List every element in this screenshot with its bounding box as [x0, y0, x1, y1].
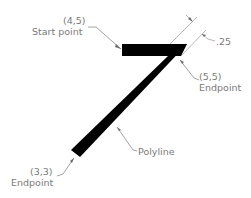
end-point-bottom-coord: (3,3) [30, 166, 53, 177]
start-point-label: Start point [32, 26, 83, 37]
start-point-arrowhead [115, 44, 121, 49]
end-point-bottom-label: Endpoint [11, 177, 54, 188]
polyline-label: Polyline [138, 146, 175, 157]
width-extension-line-1 [170, 17, 197, 44]
end-point-top-coord: (5,5) [199, 71, 222, 82]
end-point-top-arrowhead [180, 60, 184, 64]
polyline-leader [117, 127, 137, 151]
polyline-diagram: (4,5) Start point .25 (5,5) Endpoint Pol… [0, 0, 251, 198]
end-point-top-label: Endpoint [199, 82, 242, 93]
width-dimension-label: .25 [216, 36, 231, 47]
diagonal-segment [71, 44, 187, 157]
start-point-coord: (4,5) [63, 15, 86, 26]
polyline-shape [71, 44, 187, 157]
polyline-arrowhead [117, 127, 121, 131]
